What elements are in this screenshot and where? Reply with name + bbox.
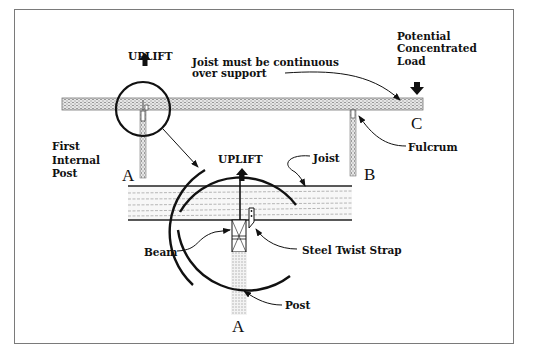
- uplift-arrow-detail-icon: [236, 168, 248, 181]
- first-post-line3: Post: [52, 167, 77, 179]
- first-post-line1: First: [52, 140, 80, 152]
- load-arrow-icon: [410, 82, 424, 95]
- detail-beam: [232, 220, 246, 252]
- detail-connector: [163, 129, 198, 167]
- steel-twist-strap: [249, 208, 254, 228]
- post-b: [350, 110, 356, 176]
- load-label-line3: Load: [397, 55, 426, 67]
- point-a-top-label: A: [122, 167, 134, 185]
- joist-note-leader: [285, 72, 400, 100]
- post-leader: [244, 291, 282, 305]
- post-a: [140, 100, 148, 178]
- fulcrum-leader: [359, 116, 406, 146]
- uplift-label-detail: UPLIFT: [218, 153, 263, 165]
- joist-note-line2: over support: [192, 67, 267, 79]
- load-label-line2: Concentrated: [397, 42, 477, 54]
- post-label: Post: [285, 299, 310, 311]
- steel-twist-strap-label: Steel Twist Strap: [302, 244, 402, 256]
- load-label-line1: Potential: [397, 30, 450, 42]
- point-b-label: B: [364, 166, 375, 184]
- point-a-bottom-label: A: [232, 318, 244, 336]
- point-c-label: C: [411, 115, 422, 133]
- joist-leader: [288, 156, 310, 186]
- detail-post: [231, 252, 247, 315]
- uplift-label-top: UPLIFT: [128, 50, 173, 62]
- first-post-line2: Internal: [52, 154, 100, 166]
- strap-leader: [256, 229, 297, 249]
- beam-leader: [177, 230, 230, 251]
- joist-label: Joist: [313, 152, 340, 164]
- fulcrum-label: Fulcrum: [408, 141, 458, 153]
- beam-label: Beam: [144, 246, 177, 258]
